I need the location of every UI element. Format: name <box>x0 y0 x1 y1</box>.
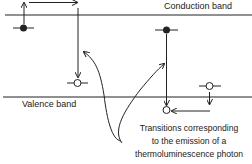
left-electron-trap <box>13 25 34 32</box>
conduction-band-label: Conduction band <box>164 1 232 11</box>
caption-line-3: thermoluminescence photon <box>126 148 252 161</box>
right-hole-trap <box>199 83 221 90</box>
valence-band-label: Valence band <box>22 99 76 109</box>
center-electron-trap <box>155 27 178 34</box>
caption-line-2: to the emission of a <box>126 135 252 148</box>
transition-caption: Transitions corresponding to the emissio… <box>126 122 252 161</box>
caption-line-1: Transitions corresponding <box>126 122 252 135</box>
left-hole-center <box>67 80 88 87</box>
center-recombination-center <box>163 107 170 114</box>
